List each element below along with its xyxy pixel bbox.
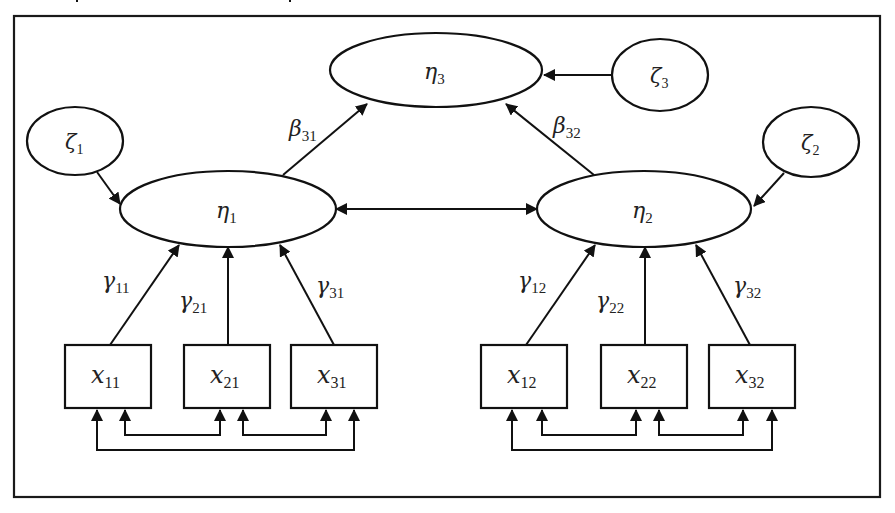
x21-symbol: x (210, 361, 224, 389)
node-eta2: η2 (537, 171, 751, 247)
x32-symbol: x (735, 361, 749, 389)
x12-subscript: 12 (521, 374, 537, 391)
eta1-symbol: η (216, 198, 229, 223)
x31-symbol: x (317, 361, 331, 389)
x31-subscript: 31 (331, 374, 347, 391)
node-x32: x32 (709, 345, 795, 408)
clipped-caption-strokes (76, 0, 291, 2)
node-eta3: η3 (330, 33, 542, 107)
node-x22: x22 (601, 345, 687, 408)
node-x12: x12 (481, 345, 567, 408)
zeta1-subscript: 1 (76, 142, 83, 157)
x32-subscript: 32 (749, 374, 765, 391)
zeta3-subscript: 3 (661, 76, 668, 91)
x11-subscript: 11 (105, 374, 120, 391)
node-eta1: η1 (120, 171, 336, 247)
eta2-symbol: η (632, 198, 645, 223)
x12-symbol: x (507, 361, 521, 389)
x22-symbol: x (627, 361, 641, 389)
node-zeta3: ζ3 (612, 39, 708, 111)
node-zeta1: ζ1 (27, 107, 123, 175)
node-x11: x11 (65, 345, 151, 408)
x21-subscript: 21 (224, 374, 240, 391)
node-zeta2: ζ2 (763, 107, 859, 177)
eta3-symbol: η (424, 59, 437, 84)
eta3-subscript: 3 (437, 71, 445, 87)
x22-subscript: 22 (641, 374, 657, 391)
node-x31: x31 (291, 345, 377, 408)
x11-symbol: x (91, 361, 105, 389)
eta2-subscript: 2 (645, 210, 653, 226)
node-x21: x21 (184, 345, 270, 408)
sem-path-diagram: η3 η1 η2 ζ3 ζ1 ζ2 x11 (0, 0, 895, 513)
eta1-subscript: 1 (229, 210, 237, 226)
zeta2-subscript: 2 (812, 143, 819, 158)
